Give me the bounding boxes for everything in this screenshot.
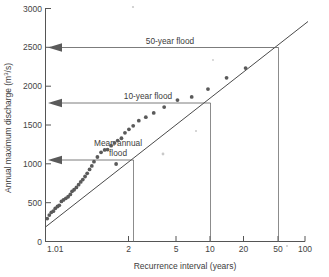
y-axis-ticks xyxy=(46,9,52,242)
data-point xyxy=(81,178,85,182)
x-axis-title: Recurrence interval (years) xyxy=(134,261,237,271)
annotation-arrows xyxy=(48,43,279,164)
y-tick-label-2500: 2500 xyxy=(23,42,42,52)
x-tick-label-5: 5 xyxy=(174,244,179,254)
x-tick-label-20: 20 xyxy=(239,244,249,254)
y-tick-label-1000: 1000 xyxy=(23,159,42,169)
drop-lines xyxy=(134,48,279,242)
data-point xyxy=(85,171,89,175)
data-point xyxy=(244,66,248,70)
data-point xyxy=(90,164,94,168)
data-point xyxy=(99,150,103,154)
data-point xyxy=(162,105,166,109)
trend-line xyxy=(46,22,308,227)
annotation-label-10-year-flood: 10-year flood xyxy=(124,91,173,101)
data-point xyxy=(92,160,96,164)
x-tick-label-50: 50 xyxy=(273,244,283,254)
data-point xyxy=(88,168,92,172)
y-tick-label-1500: 1500 xyxy=(23,120,42,130)
arrow-head-mean-annual-flood xyxy=(48,156,62,165)
data-point xyxy=(113,141,117,145)
data-point xyxy=(225,76,229,80)
data-point xyxy=(131,124,135,128)
data-point xyxy=(144,115,148,119)
data-point xyxy=(83,175,87,179)
x-axis-ticks xyxy=(46,236,306,242)
data-point xyxy=(45,217,49,221)
x-tick-label-1-01: 1.01 xyxy=(47,244,64,254)
x-tick-label-2: 2 xyxy=(126,244,131,254)
data-point xyxy=(190,95,194,99)
x-tick-label-100: 100 xyxy=(298,244,312,254)
data-point xyxy=(176,98,180,102)
data-point xyxy=(206,87,210,91)
data-point xyxy=(106,148,110,152)
data-point xyxy=(120,136,124,140)
arrow-head-50-year-flood xyxy=(48,43,62,52)
y-axis-tick-labels: 3000 2500 2000 1500 1000 500 0 xyxy=(23,4,42,247)
data-point xyxy=(57,203,61,207)
annotation-label-mean-annual-flood-line2: flood xyxy=(109,148,127,158)
flood-frequency-chart: 3000 2500 2000 1500 1000 500 0 1.01 2 5 … xyxy=(0,0,329,277)
y-tick-label-0: 0 xyxy=(37,237,42,247)
data-point xyxy=(127,127,131,131)
data-point xyxy=(109,144,113,148)
annotation-label-50-year-flood: 50-year flood xyxy=(146,36,195,46)
scatter-points xyxy=(45,66,247,220)
data-point xyxy=(116,139,120,143)
data-point xyxy=(114,162,118,166)
y-tick-label-3000: 3000 xyxy=(23,4,42,14)
x-tick-label-10: 10 xyxy=(205,244,215,254)
y-tick-label-500: 500 xyxy=(28,198,42,208)
y-axis-title: Annual maximum discharge (m3/s) xyxy=(3,63,13,193)
chart-svg: 3000 2500 2000 1500 1000 500 0 1.01 2 5 … xyxy=(0,0,329,277)
data-point xyxy=(96,155,100,159)
data-point xyxy=(152,111,156,115)
arrow-head-10-year-flood xyxy=(48,99,62,108)
x-axis-tick-labels: 1.01 2 5 10 20 50 100 xyxy=(47,244,312,254)
data-point xyxy=(123,131,127,135)
data-point xyxy=(137,119,141,123)
y-tick-label-2000: 2000 xyxy=(23,81,42,91)
